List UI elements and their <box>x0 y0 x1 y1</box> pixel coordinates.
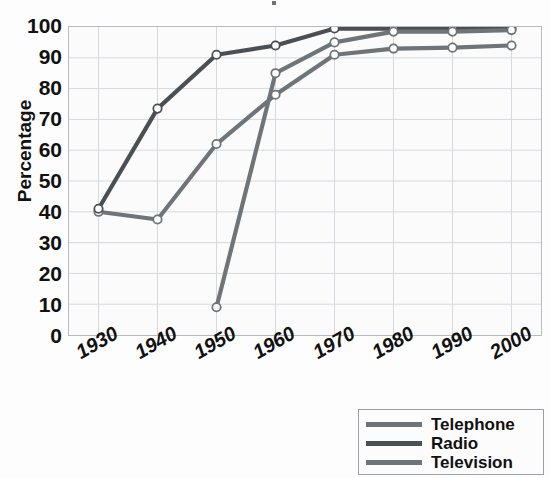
y-axis-tick-labels: 1009080706050403020100 <box>16 0 62 478</box>
line-chart: Percentage 1009080706050403020100 193019… <box>0 0 550 478</box>
y-tick-label: 50 <box>18 170 62 191</box>
y-tick-label: 70 <box>18 108 62 129</box>
legend-item-label: Television <box>431 454 513 471</box>
y-tick-label: 100 <box>18 15 62 36</box>
legend-item-label: Radio <box>431 435 478 452</box>
y-tick-label: 60 <box>18 139 62 160</box>
series-lines <box>69 27 541 335</box>
title-remnant-mark <box>272 1 276 5</box>
legend: TelephoneRadioTelevision <box>358 409 544 475</box>
plot-area <box>68 26 542 336</box>
legend-swatch-icon <box>366 460 422 465</box>
legend-item-radio[interactable]: Radio <box>359 434 543 453</box>
y-tick-label: 90 <box>18 46 62 67</box>
legend-swatch-icon <box>366 422 422 427</box>
y-tick-label: 20 <box>18 263 62 284</box>
y-tick-label: 40 <box>18 201 62 222</box>
y-tick-label: 80 <box>18 77 62 98</box>
legend-item-television[interactable]: Television <box>359 453 543 472</box>
legend-item-telephone[interactable]: Telephone <box>359 415 543 434</box>
legend-item-label: Telephone <box>431 416 515 433</box>
y-tick-label: 10 <box>18 294 62 315</box>
y-tick-label: 30 <box>18 232 62 253</box>
x-axis-tick-labels: 19301940195019601970198019902000 <box>0 336 550 406</box>
legend-swatch-icon <box>366 441 422 446</box>
